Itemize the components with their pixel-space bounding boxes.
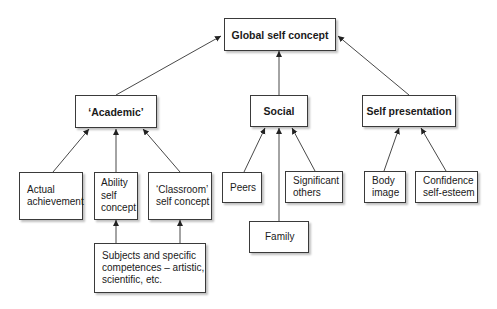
node-label-line: self-esteem	[423, 187, 475, 199]
node-label-line: concept	[101, 202, 136, 215]
arrow-classroom-to-academic	[143, 129, 180, 172]
node-label-line: Body	[372, 175, 399, 187]
arrow-academic-to-global	[116, 36, 221, 95]
node-label-line: ‘Classroom’	[156, 184, 209, 196]
node-actual-achievement: Actual achievement	[19, 172, 83, 220]
node-significant-others: Significant others	[285, 171, 343, 203]
node-label-line: Peers	[230, 182, 256, 194]
node-label: Self presentation	[366, 105, 451, 117]
node-ability-self-concept: Ability self concept	[94, 172, 138, 220]
node-classroom-self-concept: ‘Classroom’ self concept	[148, 172, 212, 220]
node-label-line: Family	[265, 231, 294, 243]
node-social: Social	[250, 95, 308, 127]
node-label-line: Actual	[27, 184, 84, 196]
node-label-line: scientific, etc.	[102, 274, 204, 286]
node-label-line: Confidence	[423, 175, 475, 187]
node-label-line: Subjects and specific	[102, 250, 204, 262]
arrow-significant-to-social	[292, 128, 315, 171]
node-body-image: Body image	[364, 171, 406, 203]
node-confidence-self-esteem: Confidence self-esteem	[415, 171, 478, 203]
arrow-actual-to-academic	[53, 129, 89, 172]
node-label-line: self	[101, 190, 136, 203]
arrow-self-presentation-to-global	[338, 36, 409, 95]
node-label: Social	[264, 105, 295, 117]
node-label-line: achievement	[27, 196, 84, 208]
node-label-line: self concept	[156, 196, 209, 208]
node-label-line: competences – artistic,	[102, 262, 204, 274]
node-label-line: others	[293, 187, 339, 199]
node-label: ‘Academic’	[88, 106, 143, 118]
node-label-line: Significant	[293, 175, 339, 187]
node-global-self-concept: Global self concept	[224, 18, 336, 51]
node-self-presentation: Self presentation	[362, 95, 456, 127]
node-label-line: image	[372, 187, 399, 199]
node-subjects-competences: Subjects and specific competences – arti…	[94, 243, 206, 293]
node-peers: Peers	[222, 172, 262, 203]
node-academic: ‘Academic’	[75, 95, 157, 128]
node-label-line: Ability	[101, 177, 136, 190]
node-label: Global self concept	[232, 29, 329, 41]
arrow-confidence-to-selfpres	[421, 128, 446, 171]
arrow-body-to-selfpres	[384, 128, 399, 171]
arrow-peers-to-social	[244, 128, 265, 172]
node-family: Family	[249, 221, 309, 253]
